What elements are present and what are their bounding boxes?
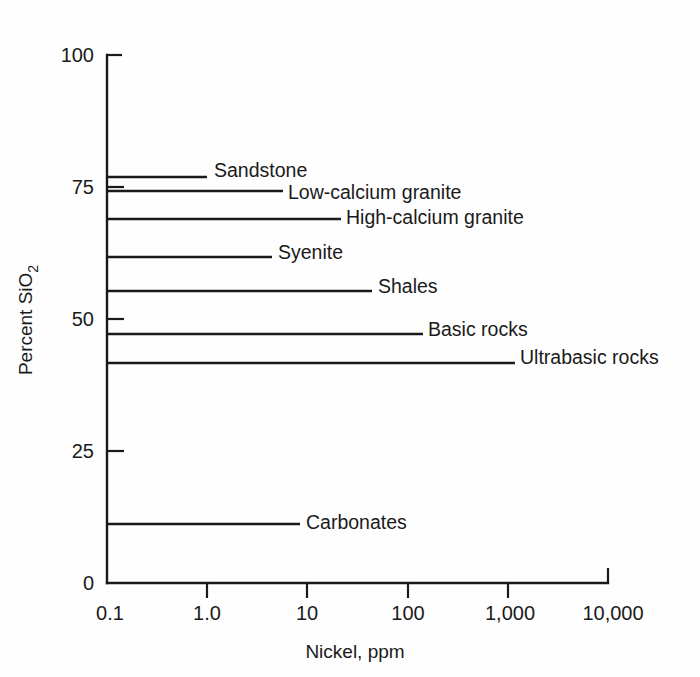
x-tick-label-10: 10 — [296, 602, 318, 624]
series-carbonates: Carbonates — [107, 511, 407, 533]
x-axis-title: Nickel, ppm — [305, 641, 404, 662]
y-tick-label-25: 25 — [72, 440, 94, 462]
label-syenite: Syenite — [278, 241, 343, 263]
label-low-calcium-granite: Low-calcium granite — [288, 181, 461, 203]
axis-frame — [107, 55, 608, 583]
x-tick-label-100: 100 — [391, 602, 424, 624]
series-syenite: Syenite — [107, 241, 343, 263]
y-axis-title-main: Percent SiO — [15, 273, 36, 375]
y-axis-ticks — [107, 187, 124, 451]
y-tick-label-0: 0 — [83, 572, 94, 594]
y-axis-tick-labels: 100 75 50 25 0 — [61, 44, 94, 594]
x-tick-label-1: 1.0 — [193, 602, 221, 624]
x-tick-label-0point1: 0.1 — [96, 602, 124, 624]
y-axis-title: Percent SiO2 — [15, 265, 41, 375]
y-tick-label-50: 50 — [72, 308, 94, 330]
nickel-vs-silica-chart: 100 75 50 25 0 0.1 1.0 10 100 1,000 10,0… — [0, 0, 700, 677]
label-high-calcium-granite: High-calcium granite — [346, 206, 524, 228]
x-tick-label-10000: 10,000 — [582, 602, 643, 624]
series-shales: Shales — [107, 275, 438, 297]
series-sandstone: Sandstone — [107, 159, 307, 181]
label-basic-rocks: Basic rocks — [428, 318, 528, 340]
label-carbonates: Carbonates — [306, 511, 407, 533]
series-high-calcium-granite: High-calcium granite — [107, 206, 524, 228]
label-sandstone: Sandstone — [214, 159, 307, 181]
y-axis-title-subscript: 2 — [25, 265, 41, 273]
x-axis-tick-labels: 0.1 1.0 10 100 1,000 10,000 — [96, 602, 643, 624]
label-ultrabasic-rocks: Ultrabasic rocks — [520, 346, 659, 368]
chart-figure: 100 75 50 25 0 0.1 1.0 10 100 1,000 10,0… — [0, 0, 700, 677]
y-axis-title-group: Percent SiO2 — [15, 265, 41, 375]
label-shales: Shales — [378, 275, 438, 297]
y-tick-label-100: 100 — [61, 44, 94, 66]
x-tick-label-1000: 1,000 — [485, 602, 535, 624]
series-low-calcium-granite: Low-calcium granite — [107, 181, 461, 203]
series-basic-rocks: Basic rocks — [107, 318, 528, 340]
y-tick-label-75: 75 — [72, 176, 94, 198]
series-ultrabasic-rocks: Ultrabasic rocks — [107, 346, 659, 368]
x-axis-ticks — [207, 583, 508, 598]
